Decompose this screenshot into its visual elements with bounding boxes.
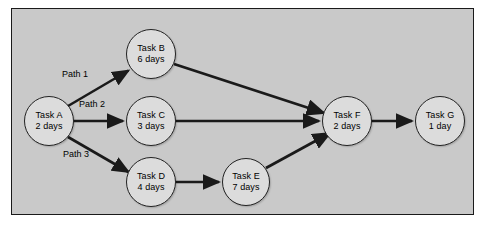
edge-label-path-3: Path 3 bbox=[63, 149, 89, 160]
node-task-b-name: Task B bbox=[137, 43, 165, 55]
node-task-e-duration: 7 days bbox=[232, 182, 259, 194]
node-task-g-name: Task G bbox=[426, 110, 455, 122]
node-task-b-duration: 6 days bbox=[137, 54, 164, 66]
node-task-c-duration: 3 days bbox=[137, 121, 164, 133]
node-task-d-name: Task D bbox=[137, 171, 165, 183]
node-task-g[interactable]: Task G 1 day bbox=[415, 96, 465, 146]
node-task-d[interactable]: Task D 4 days bbox=[126, 157, 176, 207]
node-task-e-name: Task E bbox=[232, 171, 260, 183]
node-task-g-duration: 1 day bbox=[429, 121, 452, 133]
edge-label-path-2: Path 2 bbox=[79, 99, 105, 110]
node-task-f-duration: 2 days bbox=[333, 121, 360, 133]
node-task-e[interactable]: Task E 7 days bbox=[222, 158, 270, 206]
node-task-a[interactable]: Task A 2 days bbox=[24, 96, 74, 146]
node-task-b[interactable]: Task B 6 days bbox=[126, 29, 176, 79]
diagram-root: Task A 2 days Task B 6 days Task C 3 day… bbox=[0, 0, 487, 228]
edge-label-path-1: Path 1 bbox=[62, 69, 88, 80]
node-task-d-duration: 4 days bbox=[137, 182, 164, 194]
node-task-a-duration: 2 days bbox=[35, 121, 62, 133]
node-task-f-name: Task F bbox=[333, 110, 360, 122]
node-task-a-name: Task A bbox=[35, 110, 62, 122]
node-task-f[interactable]: Task F 2 days bbox=[322, 96, 372, 146]
node-task-c-name: Task C bbox=[137, 110, 165, 122]
node-task-c[interactable]: Task C 3 days bbox=[126, 96, 176, 146]
